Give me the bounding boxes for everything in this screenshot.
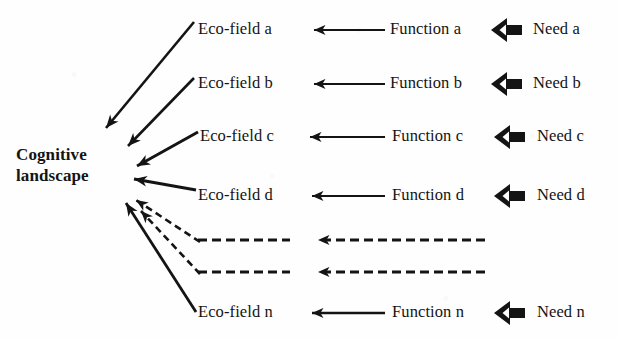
ecofield-label-d: Eco-field d [198,186,273,203]
need-to-function-block-arrows [491,18,525,325]
need-to-function-block-arrow-d [494,184,525,208]
cognitive-landscape-figure: Cognitive landscape Eco-field a Eco-fiel… [0,0,619,339]
need-label-d: Need d [537,186,585,203]
function-label-d: Function d [392,186,464,203]
ecofield-label-c: Eco-field c [200,127,274,144]
function-label-a: Function a [390,20,461,37]
need-to-function-block-arrow-n [494,301,525,325]
hub-label-line-2: landscape [16,165,89,186]
ecofield-label-b: Eco-field b [198,74,273,91]
convergence-arrow-n [126,203,196,312]
function-label-c: Function c [392,127,463,144]
need-label-b: Need b [533,74,581,91]
need-label-n: Need n [537,303,585,320]
need-label-a: Need a [533,20,580,37]
convergence-arrow-group [106,22,200,312]
ecofield-label-a: Eco-field a [198,20,272,37]
need-to-function-block-arrow-b [491,72,522,96]
ecofield-label-n: Eco-field n [198,303,273,320]
need-to-function-block-arrow-a [491,18,522,42]
function-label-n: Function n [392,303,464,320]
convergence-arrow-d [134,179,196,190]
convergence-arrow-a [106,22,194,128]
diagram-vector-layer [0,0,619,339]
need-label-c: Need c [537,127,584,144]
hub-label-line-1: Cognitive [16,144,89,165]
function-label-b: Function b [390,74,462,91]
need-to-function-block-arrow-c [494,125,525,149]
convergence-arrow-c [137,132,198,166]
hub-cognitive-landscape: Cognitive landscape [16,144,89,187]
ecofield-ellipsis-rules [198,240,290,272]
